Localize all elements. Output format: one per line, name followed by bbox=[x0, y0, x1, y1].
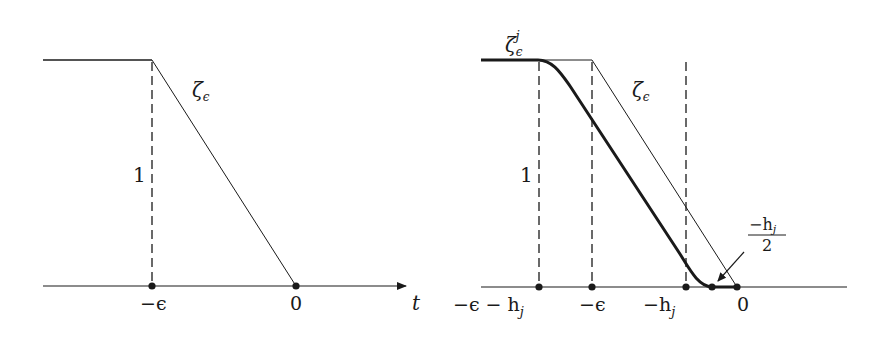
tick-dot-neg-eps bbox=[588, 283, 595, 290]
tick-dot-zero bbox=[292, 282, 299, 289]
tick-label-neg-eps: −ϵ bbox=[579, 293, 606, 315]
right-panel: ζϵj ζϵ 1 −ϵ − hj −ϵ −hj 0 −hj 2 bbox=[453, 28, 847, 319]
height-one-label: 1 bbox=[133, 163, 146, 187]
tick-dot-zero-right bbox=[733, 283, 740, 290]
tick-dot-neg-eps-minus-hj bbox=[535, 283, 542, 290]
tick-label-zero-right: 0 bbox=[737, 293, 749, 315]
tick-label-neg-eps-minus-hj: −ϵ − hj bbox=[453, 293, 524, 319]
tick-dot-neg-hj-half bbox=[708, 283, 715, 290]
tick-dot-neg-epsilon bbox=[148, 282, 155, 289]
ramp-diagonal-thin bbox=[592, 60, 737, 287]
height-one-label-right: 1 bbox=[520, 163, 533, 187]
tick-label-neg-epsilon: −ϵ bbox=[140, 292, 167, 314]
annotation-fraction: −hj 2 bbox=[748, 215, 786, 255]
fraction-numerator: −hj bbox=[749, 215, 777, 236]
tick-label-zero: 0 bbox=[290, 292, 302, 314]
t-axis-label: t bbox=[412, 291, 421, 315]
tick-label-neg-hj: −hj bbox=[643, 293, 675, 319]
zeta-epsilon-label: ζϵ bbox=[192, 78, 210, 104]
zeta-epsilon-ramp-label: ζϵ bbox=[632, 78, 650, 104]
ramp-diagonal bbox=[152, 60, 296, 286]
left-panel: ζϵ 1 −ϵ 0 t bbox=[43, 60, 421, 315]
fraction-denominator: 2 bbox=[762, 236, 772, 255]
tick-dot-neg-hj bbox=[682, 283, 689, 290]
annotation-arrow bbox=[718, 252, 744, 281]
figure-canvas: ζϵ 1 −ϵ 0 t ζϵj ζϵ 1 bbox=[0, 0, 884, 342]
zeta-epsilon-j-label: ζϵj bbox=[505, 28, 523, 59]
